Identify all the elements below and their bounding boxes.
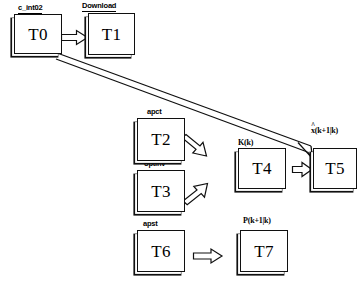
x-hat-symbol: x — [311, 127, 315, 135]
node-t2-label: T2 — [151, 131, 170, 148]
node-t7-label: T7 — [254, 243, 273, 260]
node-t7[interactable]: T7 — [240, 230, 288, 272]
node-t2[interactable]: T2 — [137, 118, 185, 161]
node-t4-label: T4 — [252, 160, 271, 177]
caption-t5-suffix: (k+1|k) — [315, 126, 338, 135]
edge-t6-to-t7 — [194, 249, 223, 263]
caption-t1: Download — [82, 2, 116, 12]
node-t6[interactable]: T6 — [137, 230, 185, 272]
caption-t3: optinv — [144, 160, 165, 168]
node-t5[interactable]: T5 — [313, 148, 357, 189]
node-t3[interactable]: T3 — [137, 170, 185, 212]
node-t3-label: T3 — [151, 183, 170, 200]
edge-t0-to-t1 — [62, 31, 88, 45]
caption-t2: apct — [147, 108, 162, 116]
node-t1-label: T1 — [102, 26, 121, 43]
caption-t5: x(k+1|k) — [311, 127, 338, 135]
node-t4[interactable]: T4 — [238, 148, 286, 189]
node-t6-label: T6 — [151, 243, 170, 260]
caption-t4: K(k) — [238, 139, 253, 147]
node-t0[interactable]: T0 — [14, 14, 62, 54]
caption-t0: c_int02 — [18, 4, 42, 14]
node-t5-label: T5 — [325, 160, 344, 177]
edge-t3-to-t4 — [183, 184, 208, 205]
edge-t4-to-t5 — [293, 163, 313, 177]
diagram-canvas: c_int02 Download apct optinv K(k) x(k+1|… — [0, 0, 360, 284]
caption-t7: P(k+1|k) — [243, 217, 271, 225]
node-t0-label: T0 — [28, 26, 47, 43]
node-t1[interactable]: T1 — [88, 13, 135, 55]
edge-t2-to-t4 — [182, 135, 207, 157]
caption-t6: apst — [143, 220, 158, 228]
